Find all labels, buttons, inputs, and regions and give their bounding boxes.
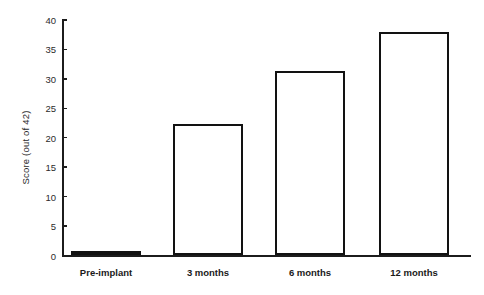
y-axis-tick (62, 19, 67, 20)
y-axis-tick-label: 5 (30, 221, 56, 232)
x-axis-tick-label: 6 months (289, 267, 331, 278)
y-axis-tick (62, 255, 67, 256)
y-axis-tick (62, 225, 67, 226)
x-axis-tick-label: 3 months (187, 267, 229, 278)
y-axis-tick (62, 49, 67, 50)
bar-6-months (275, 71, 345, 255)
y-axis-tick (62, 196, 67, 197)
y-axis-tick (62, 166, 67, 167)
y-axis-tick-label: 35 (30, 44, 56, 55)
y-axis-tick (62, 108, 67, 109)
x-axis-tick-label: 12 months (390, 267, 438, 278)
y-axis-tick-label: 30 (30, 73, 56, 84)
y-axis-tick-label: 0 (30, 250, 56, 261)
y-axis-tick (62, 137, 67, 138)
y-axis-tick-label: 25 (30, 103, 56, 114)
bar-pre-implant (71, 251, 141, 256)
y-axis-tick-label: 40 (30, 15, 56, 26)
bar-12-months (379, 32, 449, 256)
y-axis-tick-label: 10 (30, 191, 56, 202)
y-axis-tick-label: 15 (30, 162, 56, 173)
x-axis-tick-label: Pre-implant (80, 267, 132, 278)
bar-chart: Score (out of 42) 0510152025303540 Pre-i… (0, 0, 484, 295)
y-axis-tick-label: 20 (30, 132, 56, 143)
bar-3-months (173, 124, 243, 255)
y-axis-tick-labels: 0510152025303540 (28, 0, 56, 295)
y-axis-tick (62, 78, 67, 79)
